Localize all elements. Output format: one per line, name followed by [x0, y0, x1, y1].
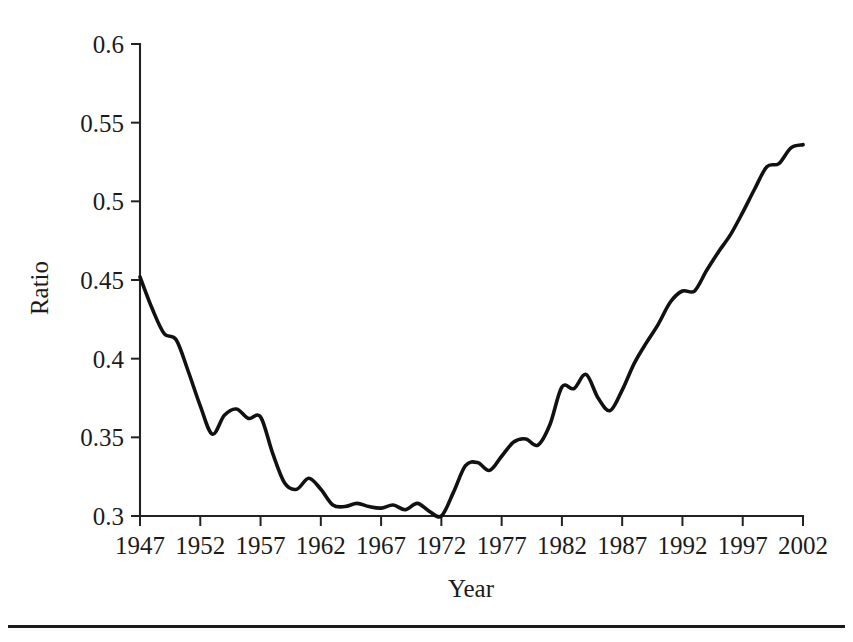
y-tick-label: 0.35 [80, 424, 124, 451]
y-tick-labels: 0.30.350.40.450.50.550.6 [80, 31, 124, 530]
x-tick-label: 1952 [175, 532, 225, 559]
y-tick-label: 0.45 [80, 267, 124, 294]
y-tick-marks [131, 44, 140, 516]
x-tick-labels: 1947195219571962196719721977198219871992… [115, 532, 828, 559]
x-tick-label: 1947 [115, 532, 165, 559]
x-tick-label: 1992 [657, 532, 707, 559]
x-tick-label: 1987 [597, 532, 647, 559]
x-tick-label: 1982 [537, 532, 587, 559]
x-tick-label: 1967 [356, 532, 406, 559]
figure-container: 0.30.350.40.450.50.550.6 194719521957196… [0, 0, 853, 642]
y-tick-label: 0.55 [80, 110, 124, 137]
x-axis-title: Year [448, 575, 495, 602]
y-tick-label: 0.4 [93, 346, 125, 373]
y-tick-label: 0.5 [93, 188, 124, 215]
x-tick-label: 1972 [416, 532, 466, 559]
y-tick-label: 0.6 [93, 31, 124, 58]
line-chart: 0.30.350.40.450.50.550.6 194719521957196… [0, 0, 853, 642]
x-tick-marks [140, 516, 803, 526]
x-tick-label: 2002 [778, 532, 828, 559]
x-tick-label: 1962 [296, 532, 346, 559]
x-axis-group: 1947195219571962196719721977198219871992… [115, 516, 828, 559]
page-rule-divider [8, 625, 845, 628]
y-axis-title: Ratio [26, 261, 53, 315]
x-tick-label: 1997 [718, 532, 768, 559]
x-tick-label: 1957 [236, 532, 286, 559]
y-tick-label: 0.3 [93, 503, 124, 530]
x-tick-label: 1977 [477, 532, 527, 559]
y-axis-group: 0.30.350.40.450.50.550.6 [80, 31, 140, 530]
data-series-line [140, 145, 803, 517]
